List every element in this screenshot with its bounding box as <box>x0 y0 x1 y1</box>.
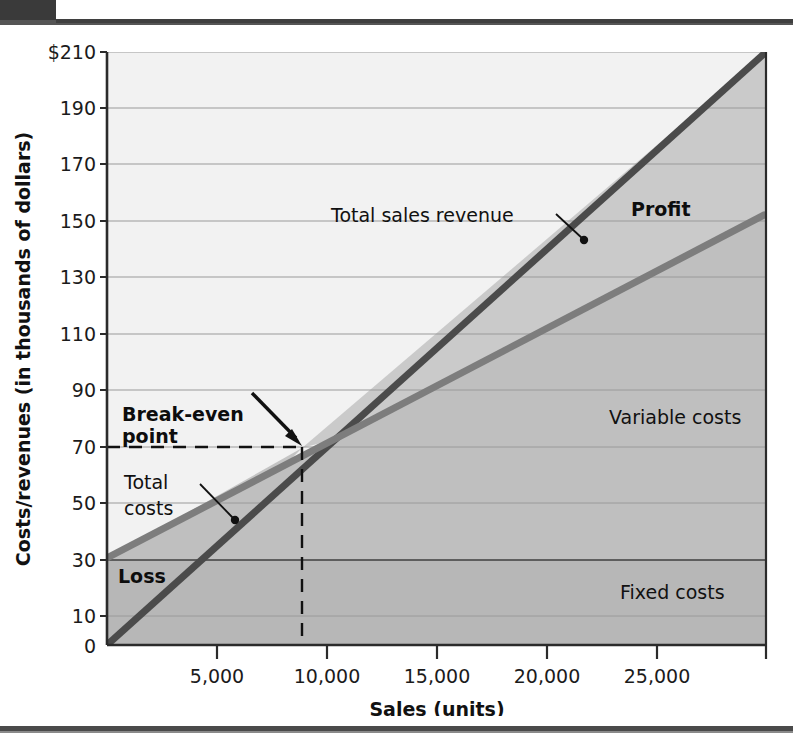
figure-page: $210 190 170 150 130 110 90 70 50 30 10 … <box>0 0 793 738</box>
x-tick-5000: 5,000 <box>190 665 244 687</box>
total-costs-label-line1: Total <box>123 471 168 493</box>
y-tick-0: 0 <box>84 635 96 657</box>
y-axis-title: Costs/revenues (in thousands of dollars) <box>12 132 34 567</box>
y-tick-170: 170 <box>60 153 96 175</box>
y-tick-30: 30 <box>72 549 96 571</box>
variable-costs-label: Variable costs <box>609 406 741 428</box>
x-tick-20000: 20,000 <box>514 665 580 687</box>
y-tick-150: 150 <box>60 210 96 232</box>
y-tick-110: 110 <box>60 323 96 345</box>
page-clipped-heading <box>170 0 730 8</box>
y-tick-190: 190 <box>60 97 96 119</box>
plot-area <box>107 52 766 645</box>
total-sales-revenue-label: Total sales revenue <box>330 204 514 226</box>
x-axis-ticks <box>217 645 766 659</box>
y-tick-50: 50 <box>72 492 96 514</box>
page-bottom-rule-thin <box>0 731 793 733</box>
y-tick-10: 10 <box>72 605 96 627</box>
x-tick-15000: 15,000 <box>404 665 470 687</box>
total-costs-label-line2: costs <box>124 497 173 519</box>
x-tick-25000: 25,000 <box>624 665 690 687</box>
break-even-chart: $210 190 170 150 130 110 90 70 50 30 10 … <box>0 26 793 716</box>
break-even-label-line2: point <box>122 425 178 447</box>
x-axis-title: Sales (units) <box>369 698 504 716</box>
profit-label: Profit <box>631 198 691 220</box>
y-tick-210: $210 <box>48 41 96 63</box>
y-tick-70: 70 <box>72 436 96 458</box>
fixed-costs-label: Fixed costs <box>620 581 725 603</box>
y-tick-130: 130 <box>60 266 96 288</box>
x-tick-10000: 10,000 <box>294 665 360 687</box>
y-tick-90: 90 <box>72 379 96 401</box>
page-corner-block <box>0 0 56 22</box>
break-even-label-line1: Break-even <box>122 403 244 425</box>
page-top-rule-dark <box>56 19 793 23</box>
loss-label: Loss <box>118 565 166 587</box>
